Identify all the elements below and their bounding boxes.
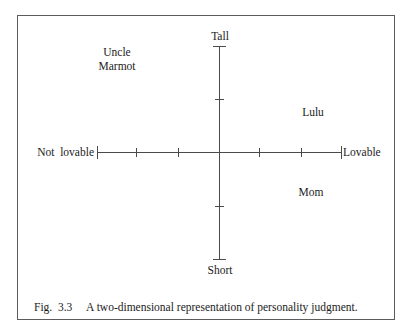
y-axis-tick-3 [215, 206, 224, 207]
y-axis-tick-cap-bottom [213, 259, 226, 260]
x-axis-right-label: Lovable [343, 146, 381, 159]
x-axis-tick-cap-left [97, 146, 98, 159]
x-axis-tick-4 [259, 148, 260, 157]
x-axis-left-label: Not lovable [30, 146, 94, 159]
y-axis-tick-1 [215, 99, 224, 100]
plot-area: Not lovable Lovable Tall Short Uncle Mar… [18, 16, 394, 319]
y-axis-line [219, 46, 220, 260]
x-axis-tick-cap-right [341, 146, 342, 159]
figure-caption: Fig. 3.3 A two-dimensional representatio… [34, 300, 384, 314]
data-point-label-mom: Mom [281, 186, 341, 200]
x-axis-tick-5 [301, 148, 302, 157]
y-axis-top-label: Tall [194, 30, 246, 43]
x-axis-tick-2 [178, 148, 179, 157]
data-point-label-lulu: Lulu [283, 106, 343, 120]
data-point-label-uncle-marmot: Uncle Marmot [74, 46, 160, 73]
x-axis-tick-1 [136, 148, 137, 157]
y-axis-tick-cap-top [213, 46, 226, 47]
y-axis-bottom-label: Short [190, 264, 250, 277]
figure-frame: Not lovable Lovable Tall Short Uncle Mar… [17, 15, 395, 320]
